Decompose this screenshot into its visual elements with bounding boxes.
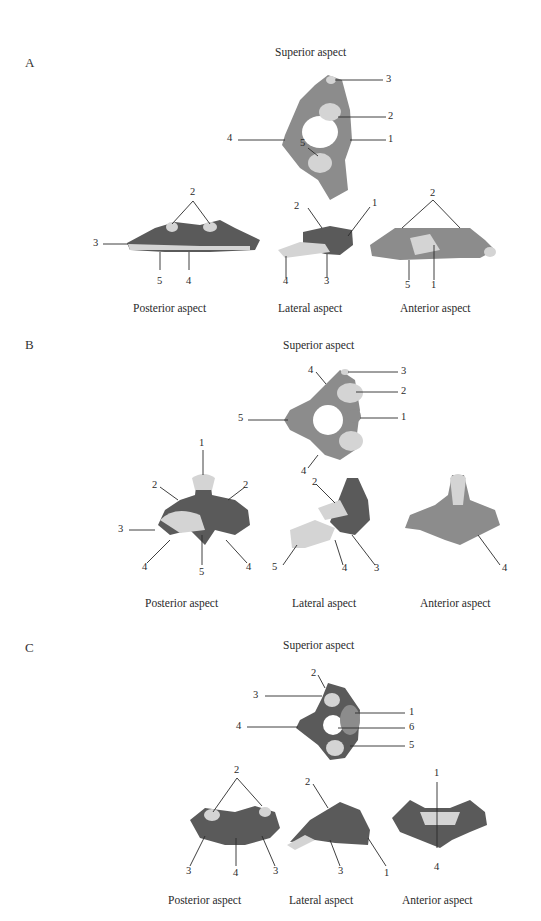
label: 2 (312, 477, 317, 488)
label: 3 (374, 563, 379, 574)
panel-c-superior-vertebra (296, 683, 360, 760)
label: 4 (502, 563, 507, 574)
label: 1 (401, 412, 406, 423)
label: 3 (273, 866, 278, 877)
panel-b-lateral-caption: Lateral aspect (292, 597, 356, 609)
panel-c-superior-caption: Superior aspect (283, 639, 354, 651)
panel-a-posterior-caption: Posterior aspect (133, 302, 206, 314)
panel-a-lateral-caption: Lateral aspect (278, 302, 342, 314)
label: 4 (227, 133, 232, 144)
label: 4 (301, 466, 306, 477)
panel-b-anterior-vertebra (405, 474, 500, 545)
panel-a-superior-vertebra (282, 75, 352, 200)
label: 4 (342, 563, 347, 574)
panel-c-anterior-caption: Anterior aspect (402, 894, 473, 906)
label: 4 (142, 562, 147, 573)
panel-a-anterior-caption: Anterior aspect (400, 302, 471, 314)
panel-b-superior-caption: Superior aspect (283, 339, 354, 351)
label: 5 (157, 276, 162, 287)
panel-c-anterior-vertebra (392, 800, 487, 848)
label: 3 (118, 524, 123, 535)
label: 1 (434, 768, 439, 779)
label: 5 (199, 567, 204, 578)
label: 3 (401, 366, 406, 377)
label: 2 (388, 111, 393, 122)
panel-c-lateral-vertebra (287, 802, 370, 850)
label: 2 (152, 480, 157, 491)
label: 5 (409, 740, 414, 751)
panel-a-letter: A (25, 55, 34, 71)
label: 3 (324, 276, 329, 287)
label: 3 (386, 74, 391, 85)
panel-a-posterior-vertebra (127, 220, 260, 252)
panel-a-lateral-vertebra (278, 226, 353, 258)
label: 2 (190, 187, 195, 198)
label: 1 (384, 868, 389, 879)
label: 3 (253, 690, 258, 701)
label: 3 (338, 866, 343, 877)
panel-a-anterior-vertebra (370, 228, 496, 260)
label: 2 (311, 668, 316, 679)
label: 2 (243, 480, 248, 491)
label: 4 (246, 562, 251, 573)
label: 4 (233, 868, 238, 879)
panel-c-lateral-caption: Lateral aspect (289, 894, 353, 906)
label: 2 (305, 777, 310, 788)
label: 1 (199, 438, 204, 449)
panel-b-letter: B (25, 337, 34, 353)
label: 4 (186, 276, 191, 287)
label: 5 (405, 280, 410, 291)
panel-b-anterior-caption: Anterior aspect (420, 597, 491, 609)
panel-b-lateral-vertebra (290, 478, 370, 548)
label: 5 (272, 562, 277, 573)
label: 4 (434, 862, 439, 873)
label: 4 (283, 276, 288, 287)
panel-b-superior-vertebra (284, 369, 363, 460)
label: 3 (186, 866, 191, 877)
label: 1 (409, 707, 414, 718)
label: 6 (409, 722, 414, 733)
label: 4 (308, 365, 313, 376)
panel-c-posterior-caption: Posterior aspect (168, 894, 241, 906)
label: 5 (238, 413, 243, 424)
panel-a-superior-caption: Superior aspect (275, 46, 346, 58)
label: 1 (372, 198, 377, 209)
vertebra-illustrations (0, 0, 541, 921)
label: 3 (93, 238, 98, 249)
panel-b-posterior-vertebra (158, 474, 250, 545)
label: 4 (236, 721, 241, 732)
panel-c-letter: C (25, 640, 34, 656)
panel-b-posterior-caption: Posterior aspect (145, 597, 218, 609)
label: 1 (431, 280, 436, 291)
label: 5 (300, 138, 305, 149)
label: 1 (388, 134, 393, 145)
label: 2 (294, 201, 299, 212)
label: 2 (234, 765, 239, 776)
label: 2 (401, 386, 406, 397)
label: 2 (430, 188, 435, 199)
